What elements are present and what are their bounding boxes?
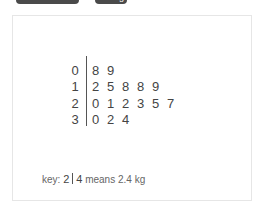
key-divider	[72, 173, 73, 184]
stem-divider-line	[86, 56, 87, 126]
leaf: 8	[122, 79, 137, 95]
stem-value: 2	[70, 96, 80, 112]
leaf: 9	[152, 79, 167, 95]
leaf: 1	[107, 96, 122, 112]
listing-tab-button[interactable]: Listing	[95, 0, 127, 4]
leaf: 5	[152, 96, 167, 112]
key-prefix: key:	[42, 174, 60, 185]
key-meaning: means 2.4 kg	[85, 174, 145, 185]
leaf: 9	[107, 63, 122, 79]
stem-and-leaf-tab-button[interactable]: Stem-and-leaf diagram	[16, 0, 79, 4]
leaf-list: 89	[92, 63, 122, 79]
leaf: 5	[107, 79, 122, 95]
stem-value: 0	[70, 63, 80, 79]
leaf: 2	[122, 96, 137, 112]
leaf: 8	[137, 79, 152, 95]
leaf-list: 012357	[92, 96, 182, 112]
leaf-list: 024	[92, 112, 137, 128]
stem-and-leaf-card: 0 89 1 25889 2 012357 3 024 key: 24 m	[12, 15, 252, 201]
key-leaf: 4	[76, 173, 82, 185]
leaf: 0	[92, 112, 107, 128]
leaf: 0	[92, 96, 107, 112]
leaf: 8	[92, 63, 107, 79]
key-legend: key: 24 means 2.4 kg	[42, 173, 145, 185]
stem-value: 1	[70, 79, 80, 95]
leaf-list: 25889	[92, 79, 167, 95]
leaf: 4	[122, 112, 137, 128]
leaf: 7	[167, 96, 182, 112]
stem-value: 3	[70, 112, 80, 128]
leaf: 3	[137, 96, 152, 112]
leaf: 2	[107, 112, 122, 128]
leaf: 2	[92, 79, 107, 95]
key-stem: 2	[63, 173, 69, 185]
